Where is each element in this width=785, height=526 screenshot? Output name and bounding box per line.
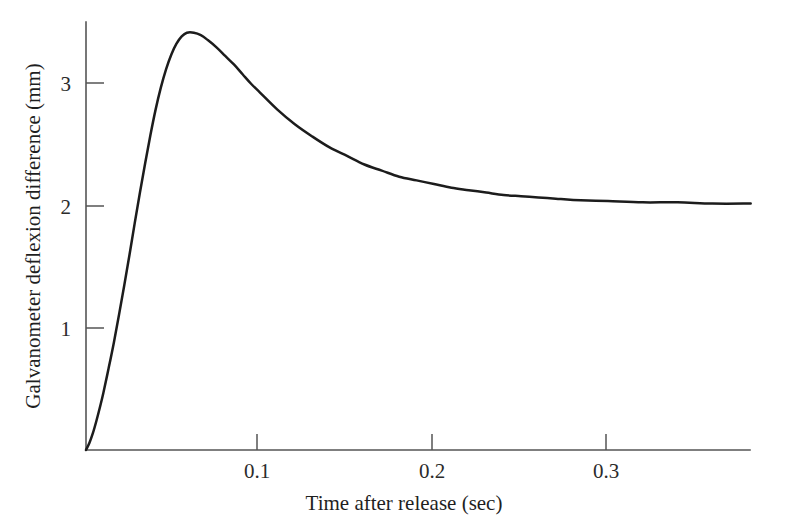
x-tick-label-0.1: 0.1 [244,459,270,483]
chart-background [0,0,785,526]
y-tick-label-3: 3 [61,72,72,96]
y-axis-title: Galvanometer deflexion difference (mm) [21,63,45,408]
galvanometer-deflexion-line-chart: 3 2 1 0.1 0.2 0.3 Time after release (se… [0,0,785,526]
y-tick-label-1: 1 [61,317,72,341]
x-tick-label-0.2: 0.2 [419,459,445,483]
x-tick-label-0.3: 0.3 [593,459,619,483]
chart-figure: 3 2 1 0.1 0.2 0.3 Time after release (se… [0,0,785,526]
x-axis-title: Time after release (sec) [306,491,503,515]
y-tick-label-2: 2 [61,195,72,219]
